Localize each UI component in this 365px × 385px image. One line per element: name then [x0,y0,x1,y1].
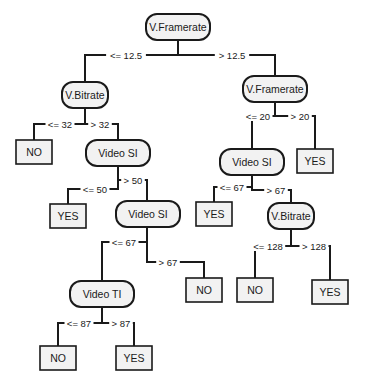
tree-edge: <= 128 [251,229,291,278]
decision-node: Video SI [116,201,180,227]
leaf-node: YES [297,149,333,173]
edge-condition-label: > 67 [267,185,286,196]
edge-condition-label: <= 67 [112,237,136,248]
tree-edge: > 50 [118,174,147,201]
leaf-node-label: NO [247,284,263,296]
leaf-node-label: YES [203,208,224,220]
edge-condition-label: > 32 [91,119,110,130]
edge-condition-label: <= 50 [83,184,107,195]
tree-edge: > 20 [275,110,315,149]
decision-node: Video SI [220,149,284,175]
leaf-node-label: YES [123,352,144,364]
edge-condition-label: <= 128 [253,241,283,252]
decision-node-label: V.Bitrate [65,89,104,101]
tree-edge: <= 12.5 [85,40,178,82]
leaf-node-label: NO [26,146,42,158]
tree-edge: > 67 [147,242,204,278]
decision-node-label: Video TI [83,288,122,300]
decision-node: Video SI [86,140,150,166]
decision-node: V.Bitrate [268,203,314,229]
leaf-node-label: NO [196,284,212,296]
tree-edge: > 128 [291,240,330,280]
decision-node-label: Video SI [98,147,138,159]
decision-node-label: V.Framerate [246,83,304,95]
tree-edge: <= 87 [58,307,102,346]
edge-condition-label: <= 20 [246,111,270,122]
tree-edge: > 87 [102,317,134,346]
decision-node: V.Framerate [243,76,307,102]
tree-edge: <= 20 [244,102,276,149]
decision-node: Video TI [70,281,134,307]
edge-line [102,227,147,281]
edge-line [85,40,178,82]
leaf-node-label: YES [304,155,325,167]
leaf-node: YES [116,346,152,370]
tree-edge: <= 67 [102,227,147,281]
decision-node: V.Framerate [146,14,210,40]
decision-node-label: V.Bitrate [271,210,310,222]
edge-condition-label: > 50 [124,175,143,186]
edge-condition-label: <= 87 [67,318,91,329]
decision-node-label: Video SI [232,156,272,168]
edge-condition-label: > 20 [291,111,310,122]
leaf-node-label: YES [319,286,340,298]
leaf-node: YES [312,280,348,304]
decision-node-label: V.Framerate [149,21,207,33]
tree-edge: > 12.5 [178,49,275,76]
leaf-node: YES [50,204,86,228]
edge-condition-label: > 67 [159,257,178,268]
tree-edge: > 67 [252,184,291,203]
leaf-node-label: NO [50,352,66,364]
edge-condition-label: <= 67 [220,182,244,193]
leaf-node-label: YES [57,210,78,222]
edge-condition-label: > 87 [112,318,131,329]
leaf-node: NO [40,346,76,370]
tree-edge: <= 32 [34,108,85,140]
tree-edge: <= 67 [214,175,252,202]
leaf-node: NO [186,278,222,302]
tree-edge: <= 50 [68,166,118,204]
edge-condition-label: > 128 [302,241,326,252]
decision-tree-diagram: <= 12.5> 12.5<= 32> 32<= 50> 50<= 67> 67… [0,0,365,385]
leaf-node: NO [16,140,52,164]
tree-nodes: V.FramerateV.BitrateV.FramerateVideo SIV… [16,14,348,370]
edge-condition-label: <= 12.5 [110,50,142,61]
leaf-node: NO [237,278,273,302]
decision-node-label: Video SI [128,208,168,220]
edge-line [255,229,291,278]
edge-condition-label: <= 32 [48,119,72,130]
tree-edge: > 32 [85,118,118,140]
leaf-node: YES [196,202,232,226]
edge-line [252,102,275,149]
edge-condition-label: > 12.5 [219,50,246,61]
decision-node: V.Bitrate [62,82,108,108]
